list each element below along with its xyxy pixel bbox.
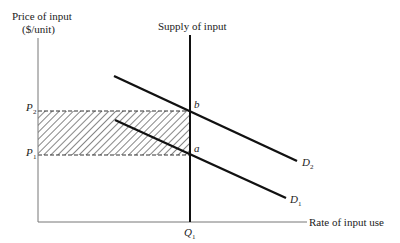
input-market-diagram: Price of input ($/unit) Supply of input … — [0, 0, 400, 243]
p2-label: P — [25, 101, 33, 113]
y-axis-label-line2: ($/unit) — [22, 23, 55, 36]
supply-label: Supply of input — [158, 20, 226, 32]
x-axis-label: Rate of input use — [309, 216, 384, 228]
point-b-label: b — [194, 98, 200, 110]
d2-label: D — [301, 156, 310, 168]
q1-subscript: 1 — [192, 233, 196, 241]
d1-subscript: 1 — [298, 200, 302, 208]
shaded-area — [38, 111, 190, 155]
p2-subscript: 2 — [33, 108, 37, 116]
point-a-label: a — [194, 142, 200, 154]
d1-label: D — [289, 193, 298, 205]
d2-subscript: 2 — [310, 163, 314, 171]
q1-label: Q — [184, 226, 192, 238]
p1-subscript: 1 — [33, 153, 37, 161]
y-axis-label-line1: Price of input — [12, 10, 72, 22]
p1-label: P — [25, 146, 33, 158]
demand-d1-line — [115, 120, 286, 198]
